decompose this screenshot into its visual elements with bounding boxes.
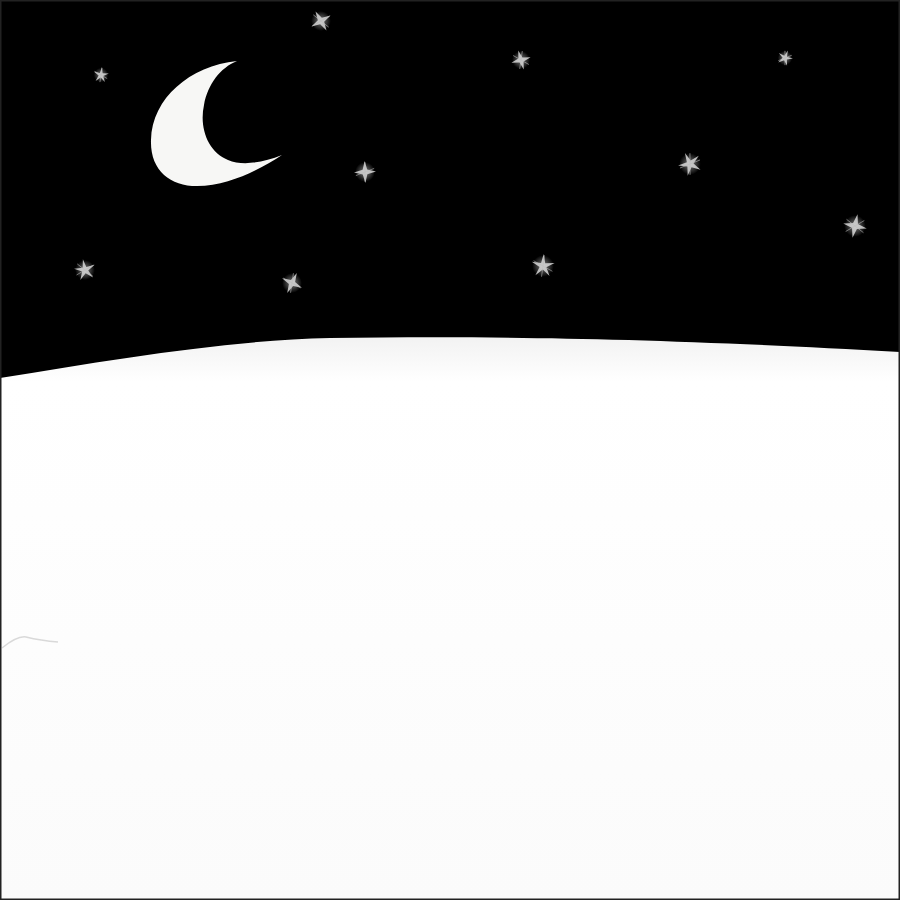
scene-canvas xyxy=(0,0,900,900)
snow-field xyxy=(0,337,900,900)
night-scene: Paper-cut style night scene: crescent mo… xyxy=(0,0,900,900)
